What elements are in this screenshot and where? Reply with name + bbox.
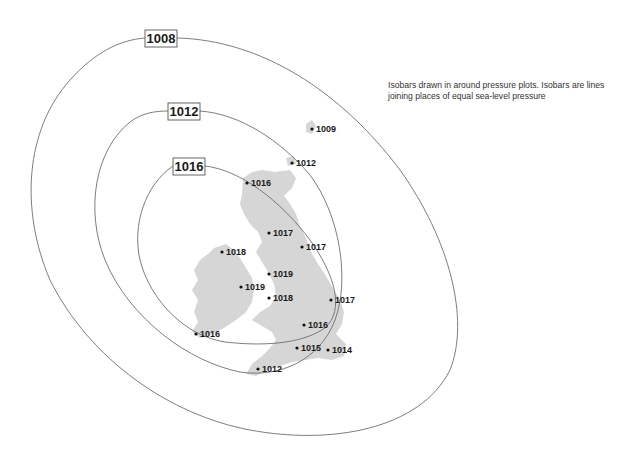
- station-value: 1017: [273, 228, 293, 238]
- station-value: 1012: [296, 158, 316, 168]
- station-value: 1016: [200, 329, 220, 339]
- station-value: 1016: [308, 320, 328, 330]
- station-dot-icon: [245, 181, 248, 184]
- isobar-map: 1008 1012 1016 1009 1012 1016 1017: [0, 0, 623, 460]
- orkney-landmass: [286, 156, 296, 166]
- station-value: 1017: [335, 295, 355, 305]
- station-value: 1015: [301, 343, 321, 353]
- station-dot-icon: [302, 323, 305, 326]
- northern-isles-landmass: [306, 120, 316, 134]
- station-value: 1012: [262, 364, 282, 374]
- isobar-value-1008: 1008: [147, 31, 176, 46]
- diagram-caption: Isobars drawn in around pressure plots. …: [388, 80, 608, 102]
- station-dot-icon: [326, 348, 329, 351]
- isobar-value-1016: 1016: [175, 159, 204, 174]
- station-dot-icon: [329, 298, 332, 301]
- station-plot: 1018: [267, 293, 293, 303]
- station-dot-icon: [194, 332, 197, 335]
- station-dot-icon: [267, 296, 270, 299]
- station-dot-icon: [295, 346, 298, 349]
- station-dot-icon: [290, 161, 293, 164]
- station-dot-icon: [239, 285, 242, 288]
- isobar-value-1012: 1012: [170, 104, 199, 119]
- station-value: 1019: [245, 282, 265, 292]
- station-value: 1018: [273, 293, 293, 303]
- station-value: 1014: [332, 345, 352, 355]
- station-dot-icon: [267, 272, 270, 275]
- station-value: 1017: [306, 242, 326, 252]
- station-dot-icon: [267, 231, 270, 234]
- station-dot-icon: [220, 250, 223, 253]
- isobar-label-1012: 1012: [168, 103, 200, 120]
- station-dot-icon: [300, 245, 303, 248]
- isobar-label-1008: 1008: [145, 30, 177, 47]
- station-dot-icon: [310, 127, 313, 130]
- station-dot-icon: [256, 367, 259, 370]
- station-value: 1016: [251, 178, 271, 188]
- station-value: 1019: [273, 269, 293, 279]
- station-value: 1009: [316, 124, 336, 134]
- station-value: 1018: [226, 247, 246, 257]
- isobar-label-1016: 1016: [173, 158, 205, 175]
- isobar-labels: 1008 1012 1016: [145, 30, 205, 175]
